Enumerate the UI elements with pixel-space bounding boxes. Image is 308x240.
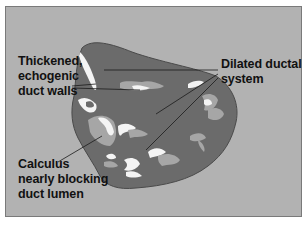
label-line: nearly blocking xyxy=(18,172,108,187)
label-thickened-duct-walls: Thickened, echogenic duct walls xyxy=(18,54,82,99)
label-line: duct lumen xyxy=(18,187,108,202)
label-calculus: Calculus nearly blocking duct lumen xyxy=(18,157,108,202)
label-dilated-ductal-system: Dilated ductal system xyxy=(221,57,302,87)
label-line: Dilated ductal xyxy=(221,57,302,72)
label-line: Thickened, xyxy=(18,54,82,69)
label-line: echogenic xyxy=(18,69,82,84)
label-line: system xyxy=(221,72,302,87)
label-line: duct walls xyxy=(18,84,82,99)
label-line: Calculus xyxy=(18,157,108,172)
